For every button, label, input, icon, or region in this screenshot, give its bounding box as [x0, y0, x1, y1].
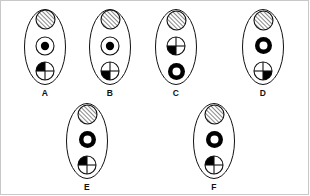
option-oval-e	[65, 102, 109, 180]
shape-stack	[65, 102, 109, 180]
option-oval-f	[192, 102, 236, 180]
option-label: C	[145, 88, 207, 98]
option-e[interactable]: E	[56, 102, 118, 192]
quartered-circle-upper-left-filled-icon	[204, 155, 224, 179]
option-b[interactable]: B	[79, 8, 141, 98]
hatched-circle-icon	[253, 10, 274, 35]
dot-in-circle-icon	[100, 36, 120, 60]
figure-board: ABCDEF	[0, 0, 310, 196]
quartered-circle-upper-left-filled-icon	[77, 155, 97, 179]
shape-stack	[88, 8, 132, 86]
option-oval-b	[88, 8, 132, 86]
option-oval-a	[23, 8, 67, 86]
hatched-circle-icon	[100, 9, 121, 34]
quartered-circle-lower-left-filled-icon	[166, 36, 186, 60]
hatched-circle-icon	[204, 104, 225, 129]
option-label: A	[14, 88, 76, 98]
thick-ring-circle-icon	[254, 36, 273, 59]
thick-ring-circle-icon	[167, 62, 186, 85]
option-label: F	[183, 182, 245, 192]
thick-ring-circle-icon	[205, 130, 224, 153]
quartered-circle-lower-right-filled-icon	[253, 61, 273, 85]
hatched-circle-icon	[77, 104, 98, 129]
shape-stack	[241, 8, 285, 86]
option-label: E	[56, 182, 118, 192]
option-a[interactable]: A	[14, 8, 76, 98]
option-oval-d	[241, 8, 285, 86]
shape-stack	[192, 102, 236, 180]
option-f[interactable]: F	[183, 102, 245, 192]
shape-stack	[154, 8, 198, 86]
quartered-circle-lower-left-filled-icon	[100, 61, 120, 85]
option-d[interactable]: D	[232, 8, 294, 98]
hatched-circle-icon	[35, 9, 56, 34]
hatched-circle-icon	[166, 10, 187, 35]
shape-stack	[23, 8, 67, 86]
thick-ring-circle-icon	[78, 130, 97, 153]
dot-in-circle-icon	[35, 36, 55, 60]
option-c[interactable]: C	[145, 8, 207, 98]
option-label: B	[79, 88, 141, 98]
quartered-circle-upper-left-filled-icon	[35, 61, 55, 85]
option-oval-c	[154, 8, 198, 86]
option-label: D	[232, 88, 294, 98]
